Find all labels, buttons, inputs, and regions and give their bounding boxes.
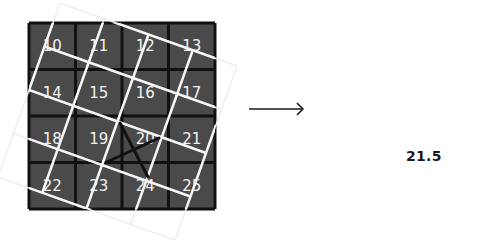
pixel-value-label: 16	[136, 84, 155, 102]
pixel-value-label: 15	[89, 84, 108, 102]
resampled-value: 21.5	[406, 148, 442, 164]
pixel-value-label: 19	[89, 130, 108, 148]
right-arrow-icon	[249, 103, 303, 115]
resampling-diagram: 10111213141516171819202122232425	[0, 0, 479, 249]
